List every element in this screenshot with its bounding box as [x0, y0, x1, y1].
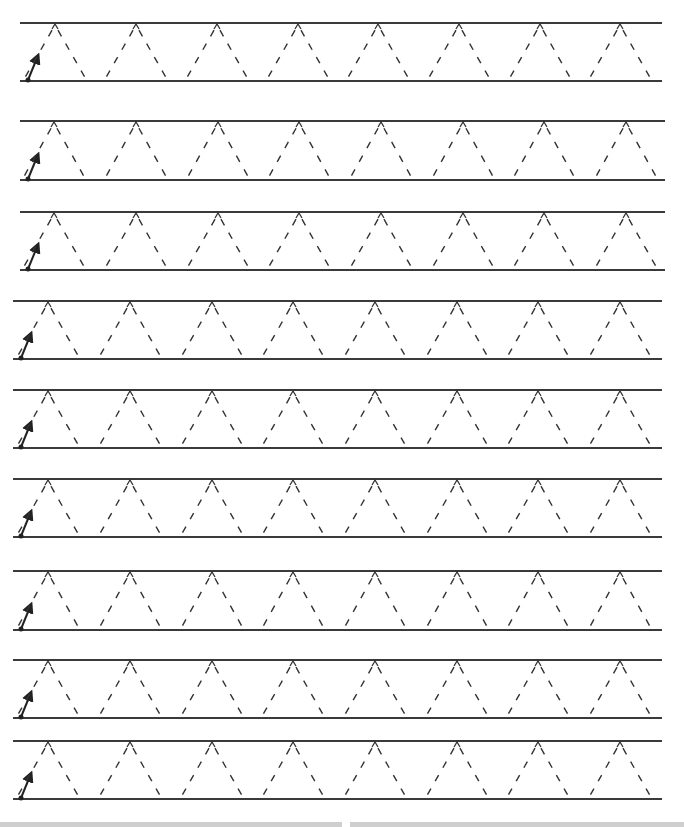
tracing-letter-lambda [98, 480, 162, 537]
tracing-letter-lambda [16, 572, 80, 630]
tracing-letter-lambda [267, 122, 331, 180]
tracing-letter-lambda [506, 661, 570, 718]
tracing-letter-lambda [104, 24, 168, 81]
tracing-letter-lambda [588, 391, 652, 448]
tracing-letter-lambda [23, 24, 87, 81]
tracing-letter-lambda [98, 742, 162, 799]
practice-row [13, 571, 662, 632]
start-arrow-icon [21, 336, 30, 358]
tracing-letter-lambda [427, 24, 491, 81]
tracing-letter-lambda [261, 480, 325, 537]
tracing-letter-lambda [185, 24, 249, 81]
tracing-letter-lambda [425, 742, 489, 799]
tracing-letter-lambda [588, 742, 652, 799]
tracing-letter-lambda [266, 24, 330, 81]
start-arrow-icon [28, 58, 37, 80]
tracing-letter-lambda [261, 391, 325, 448]
tracing-letter-lambda [431, 213, 495, 270]
tracing-letter-lambda [180, 661, 244, 718]
practice-row [20, 23, 662, 83]
tracing-letter-lambda [588, 302, 652, 359]
tracing-letter-lambda [104, 122, 168, 180]
tracing-letter-lambda [508, 24, 572, 81]
tracing-letter-lambda [16, 302, 80, 359]
tracing-letter-lambda [98, 572, 162, 630]
tracing-letter-lambda [98, 661, 162, 718]
tracing-letter-lambda [425, 572, 489, 630]
tracing-letter-lambda [16, 661, 80, 718]
tracing-letter-lambda [425, 661, 489, 718]
tracing-letter-lambda [343, 661, 407, 718]
practice-row [13, 741, 662, 801]
tracing-letter-lambda [512, 122, 576, 180]
tracing-letter-lambda [506, 480, 570, 537]
tracing-letter-lambda [186, 122, 250, 180]
practice-row [20, 121, 665, 182]
tracing-letter-lambda [349, 122, 413, 180]
start-arrow-icon [21, 607, 30, 629]
tracing-letter-lambda [431, 122, 495, 180]
practice-row [20, 212, 665, 272]
start-arrow-icon [21, 776, 30, 798]
tracing-letter-lambda [180, 391, 244, 448]
tracing-letter-lambda [16, 742, 80, 799]
tracing-letter-lambda [98, 391, 162, 448]
tracing-letter-lambda [98, 302, 162, 359]
tracing-letter-lambda [180, 480, 244, 537]
tracing-letter-lambda [425, 480, 489, 537]
tracing-letter-lambda [506, 572, 570, 630]
tracing-letter-lambda [594, 122, 658, 180]
handwriting-worksheet [0, 0, 684, 827]
tracing-letter-lambda [594, 213, 658, 270]
tracing-letter-lambda [343, 302, 407, 359]
tracing-letter-lambda [186, 213, 250, 270]
tracing-letter-lambda [16, 480, 80, 537]
tracing-letter-lambda [506, 391, 570, 448]
tracing-letter-lambda [588, 480, 652, 537]
tracing-letter-lambda [343, 480, 407, 537]
tracing-letter-lambda [588, 24, 652, 81]
tracing-letter-lambda [425, 302, 489, 359]
practice-row [13, 479, 662, 539]
tracing-letter-lambda [588, 572, 652, 630]
tracing-letter-lambda [349, 213, 413, 270]
tracing-letter-lambda [588, 661, 652, 718]
tracing-letter-lambda [16, 391, 80, 448]
tracing-letter-lambda [343, 572, 407, 630]
bottom-edge-segment [350, 822, 684, 827]
tracing-letter-lambda [180, 572, 244, 630]
tracing-letter-lambda [267, 213, 331, 270]
tracing-letter-lambda [506, 742, 570, 799]
tracing-letter-lambda [343, 391, 407, 448]
bottom-edge-segment [0, 822, 342, 827]
tracing-letter-lambda [180, 302, 244, 359]
start-arrow-icon [21, 695, 30, 717]
start-arrow-icon [21, 514, 30, 536]
practice-row [13, 301, 662, 361]
practice-rows [13, 23, 665, 801]
tracing-letter-lambda [425, 391, 489, 448]
tracing-letter-lambda [506, 302, 570, 359]
tracing-letter-lambda [343, 742, 407, 799]
tracing-letter-lambda [261, 661, 325, 718]
tracing-letter-lambda [512, 213, 576, 270]
practice-row [13, 390, 662, 450]
tracing-letter-lambda [346, 24, 410, 81]
tracing-letter-lambda [261, 572, 325, 630]
tracing-letter-lambda [261, 302, 325, 359]
tracing-letter-lambda [180, 742, 244, 799]
start-arrow-icon [21, 425, 30, 447]
tracing-letter-lambda [104, 213, 168, 270]
tracing-letter-lambda [261, 742, 325, 799]
practice-row [13, 660, 662, 720]
